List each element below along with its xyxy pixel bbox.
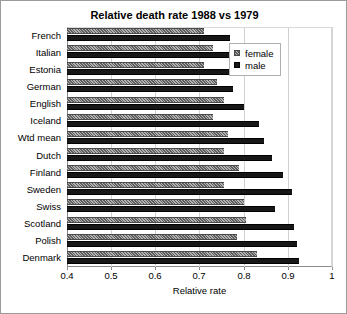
bar-male[interactable] (67, 52, 246, 58)
category-label: Italian (0, 47, 61, 58)
bar-male[interactable] (67, 224, 294, 230)
x-tick-label: 0.5 (104, 270, 117, 281)
bar-male[interactable] (67, 241, 297, 247)
category-label: Swiss (0, 201, 61, 212)
bar-male[interactable] (67, 258, 299, 264)
bar-female[interactable] (67, 165, 239, 171)
bar-male[interactable] (67, 104, 244, 110)
bar-female[interactable] (67, 114, 213, 120)
x-tick-label: 0.7 (192, 270, 205, 281)
bar-male[interactable] (67, 69, 233, 75)
bar-female[interactable] (67, 62, 204, 68)
category-label: Wtd mean (0, 132, 61, 143)
category-label: French (0, 30, 61, 41)
bar-female[interactable] (67, 79, 217, 85)
bar-female[interactable] (67, 28, 204, 34)
bar-female[interactable] (67, 131, 228, 137)
category-label: Estonia (0, 64, 61, 75)
bar-female[interactable] (67, 199, 244, 205)
x-tick-label: 0.4 (60, 270, 73, 281)
bar-female[interactable] (67, 97, 224, 103)
legend-item[interactable]: male (234, 59, 274, 71)
category-label: Dutch (0, 150, 61, 161)
category-label: Polish (0, 235, 61, 246)
bar-female[interactable] (67, 148, 224, 154)
x-tick-label: 0.6 (148, 270, 161, 281)
bar-male[interactable] (67, 172, 283, 178)
female-swatch-icon (234, 50, 240, 56)
bar-male[interactable] (67, 206, 275, 212)
category-label: German (0, 81, 61, 92)
legend-item[interactable]: female (234, 47, 274, 59)
chart-container: Relative death rate 1988 vs 1979 FrenchI… (0, 0, 347, 314)
bar-male[interactable] (67, 138, 264, 144)
x-tick-label: 1 (329, 270, 334, 281)
x-tick-label: 0.8 (237, 270, 250, 281)
bar-male[interactable] (67, 35, 230, 41)
bar-female[interactable] (67, 251, 257, 257)
category-label: Iceland (0, 115, 61, 126)
category-label: Finland (0, 167, 61, 178)
chart-legend: female male (229, 43, 281, 76)
bar-male[interactable] (67, 155, 272, 161)
legend-item-label: female (245, 48, 274, 59)
category-label: Sweden (0, 184, 61, 195)
male-swatch-icon (234, 62, 240, 68)
bar-male[interactable] (67, 121, 259, 127)
bar-female[interactable] (67, 182, 224, 188)
chart-title: Relative death rate 1988 vs 1979 (1, 9, 347, 21)
bar-male[interactable] (67, 189, 292, 195)
x-axis-title: Relative rate (67, 285, 332, 296)
category-label: English (0, 98, 61, 109)
x-tick-label: 0.9 (281, 270, 294, 281)
bar-male[interactable] (67, 86, 233, 92)
category-label: Scotland (0, 218, 61, 229)
category-label: Denmark (0, 252, 61, 263)
bar-female[interactable] (67, 45, 213, 51)
legend-item-label: male (245, 60, 266, 71)
bar-female[interactable] (67, 217, 246, 223)
bar-female[interactable] (67, 234, 237, 240)
